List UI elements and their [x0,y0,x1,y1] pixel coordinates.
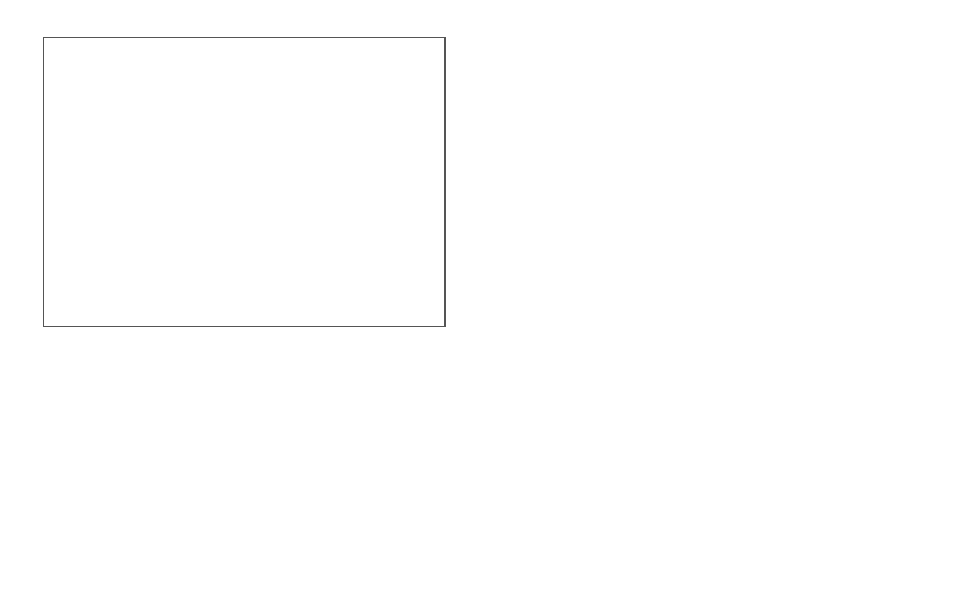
panel-a-frame2 [43,37,445,327]
